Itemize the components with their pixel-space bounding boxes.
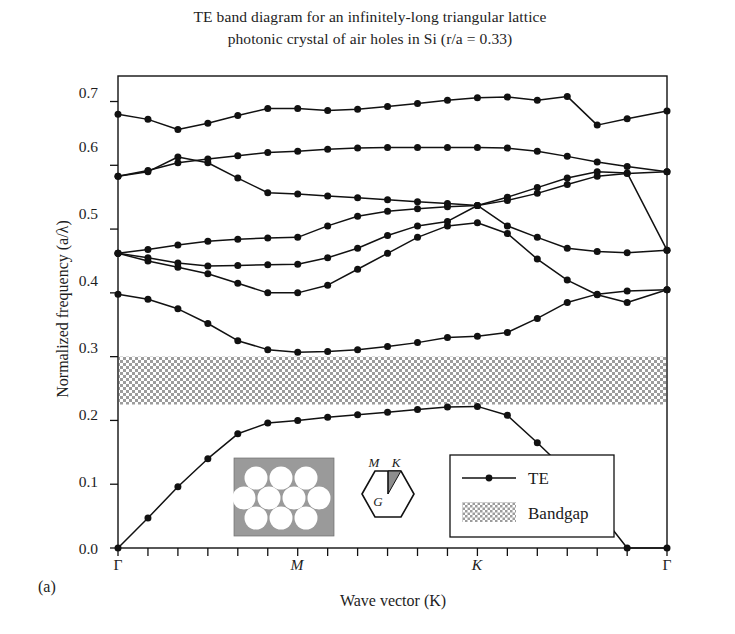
band-marker	[264, 289, 271, 296]
band-marker	[624, 299, 631, 306]
band-marker	[664, 545, 671, 552]
band-marker	[414, 198, 421, 205]
band-marker	[414, 100, 421, 107]
band-marker	[264, 346, 271, 353]
lattice-inset	[233, 458, 335, 536]
band-marker	[474, 202, 481, 209]
band-marker	[354, 194, 361, 201]
band-marker	[474, 94, 481, 101]
band-marker	[264, 105, 271, 112]
band-marker	[354, 213, 361, 220]
band-marker	[384, 103, 391, 110]
band-marker	[115, 250, 122, 257]
band-marker	[264, 235, 271, 242]
band-marker	[384, 250, 391, 257]
band-marker	[444, 334, 451, 341]
legend-te-marker	[486, 475, 493, 482]
band-marker	[324, 146, 331, 153]
band-marker	[534, 234, 541, 241]
band-marker	[174, 159, 181, 166]
band-marker	[264, 149, 271, 156]
bandgap-region	[119, 357, 666, 405]
band-marker	[564, 245, 571, 252]
band-marker	[384, 232, 391, 239]
band-marker	[444, 218, 451, 225]
band-marker	[504, 94, 511, 101]
band-marker	[234, 280, 241, 287]
band-marker	[564, 93, 571, 100]
band-marker	[204, 455, 211, 462]
band-marker	[294, 191, 301, 198]
band-marker	[624, 287, 631, 294]
band-marker	[594, 173, 601, 180]
band-marker	[294, 105, 301, 112]
band-marker	[594, 248, 601, 255]
band-marker	[115, 545, 122, 552]
band-marker	[234, 175, 241, 182]
band-marker	[504, 412, 511, 419]
band-line-6	[118, 157, 667, 205]
band-marker	[234, 152, 241, 159]
band-marker	[564, 153, 571, 160]
band-marker	[534, 256, 541, 263]
band-marker	[504, 329, 511, 336]
band-marker	[534, 148, 541, 155]
band-marker	[444, 97, 451, 104]
band-marker	[354, 346, 361, 353]
band-marker	[324, 414, 331, 421]
band-line-2	[118, 290, 667, 353]
band-marker	[144, 515, 151, 522]
band-marker	[624, 163, 631, 170]
band-marker	[664, 286, 671, 293]
band-marker	[234, 236, 241, 243]
band-marker	[504, 197, 511, 204]
band-marker	[144, 246, 151, 253]
band-line-8	[118, 96, 667, 129]
band-marker	[444, 404, 451, 411]
band-line-4	[118, 205, 667, 266]
band-marker	[324, 282, 331, 289]
bz-label-k: K	[391, 455, 402, 470]
band-marker	[115, 173, 122, 180]
band-marker	[474, 403, 481, 410]
band-marker	[414, 222, 421, 229]
band-marker	[204, 320, 211, 327]
band-marker	[204, 270, 211, 277]
band-marker	[384, 343, 391, 350]
band-marker	[624, 170, 631, 177]
bz-label-gamma: G	[373, 494, 383, 509]
band-marker	[294, 289, 301, 296]
band-marker	[324, 192, 331, 199]
band-marker	[594, 122, 601, 129]
band-marker	[324, 254, 331, 261]
band-marker	[384, 409, 391, 416]
plot-area: M K G TE Bandgap	[0, 0, 735, 634]
band-marker	[474, 144, 481, 151]
band-marker	[264, 261, 271, 268]
band-marker	[144, 116, 151, 123]
band-marker	[294, 417, 301, 424]
band-marker	[564, 299, 571, 306]
legend-bandgap-label: Bandgap	[528, 504, 588, 523]
band-marker	[664, 168, 671, 175]
band-marker	[234, 430, 241, 437]
band-line-5	[118, 172, 667, 254]
band-marker	[204, 120, 211, 127]
band-marker	[664, 247, 671, 254]
band-marker	[115, 111, 122, 118]
band-marker	[564, 181, 571, 188]
band-marker	[474, 333, 481, 340]
band-marker	[204, 238, 211, 245]
band-marker	[354, 106, 361, 113]
band-marker	[564, 175, 571, 182]
band-marker	[594, 291, 601, 298]
band-marker	[204, 155, 211, 162]
band-marker	[234, 337, 241, 344]
band-marker	[144, 254, 151, 261]
band-marker	[354, 245, 361, 252]
band-marker	[234, 262, 241, 269]
band-marker	[384, 196, 391, 203]
band-marker	[414, 339, 421, 346]
legend-te-label: TE	[528, 469, 549, 488]
band-marker	[174, 242, 181, 249]
